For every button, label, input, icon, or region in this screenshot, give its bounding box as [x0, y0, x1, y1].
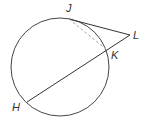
label-h: H — [12, 102, 20, 113]
geometry-diagram — [0, 0, 150, 121]
circle — [11, 18, 109, 116]
label-k: K — [111, 50, 118, 61]
label-l: L — [133, 30, 139, 41]
label-j: J — [66, 3, 72, 14]
secant-segment-hl — [27, 35, 130, 102]
